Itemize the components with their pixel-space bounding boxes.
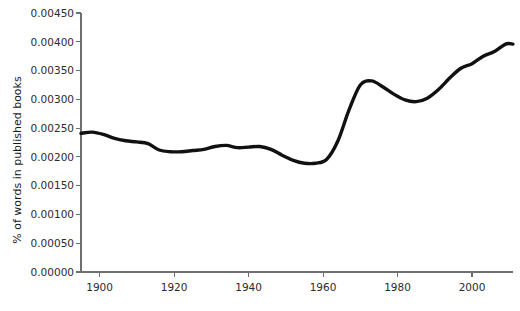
y-tick-label: 0.00400 <box>31 36 74 48</box>
x-tick-label: 1900 <box>86 281 113 293</box>
chart-container: 0.000000.000500.001000.001500.002000.002… <box>0 0 520 311</box>
y-tick-label: 0.00300 <box>31 93 74 105</box>
x-tick-label: 1960 <box>310 281 337 293</box>
x-tick-label: 1940 <box>235 281 262 293</box>
y-tick-label: 0.00350 <box>31 64 74 76</box>
y-tick-mark-group <box>76 13 81 272</box>
y-tick-label: 0.00250 <box>31 122 74 134</box>
y-tick-label: 0.00050 <box>31 237 74 249</box>
x-tick-label: 1980 <box>384 281 411 293</box>
y-axis-title: % of words in published books <box>11 76 24 244</box>
y-tick-label: 0.00000 <box>31 266 74 278</box>
x-tick-mark-group <box>100 272 472 277</box>
x-tick-label: 2000 <box>459 281 486 293</box>
data-series-line <box>81 44 513 164</box>
y-tick-label: 0.00100 <box>31 208 74 220</box>
y-tick-label: 0.00450 <box>31 7 74 19</box>
x-tick-label-group: 190019201940196019802000 <box>86 281 485 293</box>
y-tick-label-group: 0.000000.000500.001000.001500.002000.002… <box>31 7 74 278</box>
line-chart: 0.000000.000500.001000.001500.002000.002… <box>0 0 520 311</box>
y-tick-label: 0.00150 <box>31 179 74 191</box>
x-tick-label: 1920 <box>161 281 188 293</box>
y-tick-label: 0.00200 <box>31 151 74 163</box>
